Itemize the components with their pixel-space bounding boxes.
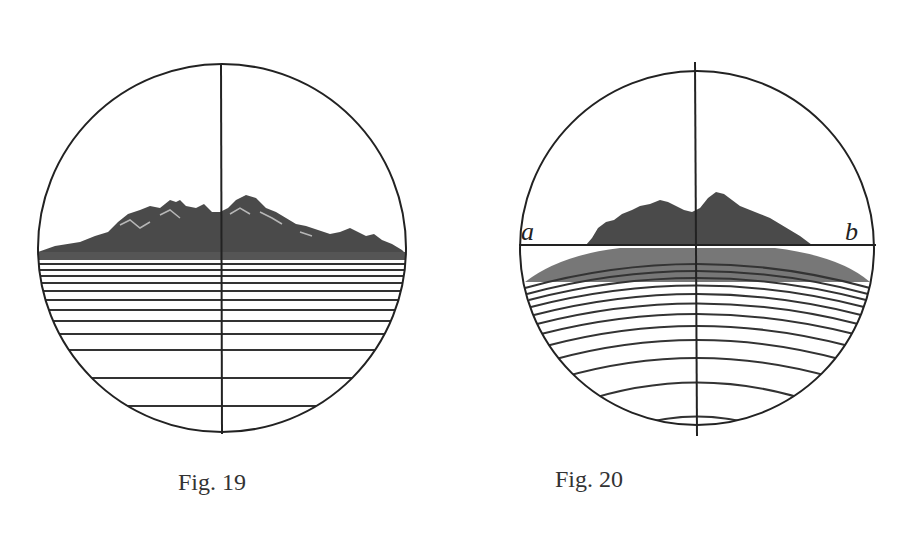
fig19-caption: Fig. 19: [178, 469, 246, 496]
fig20-label-b: b: [845, 217, 858, 246]
fig20-mountains: [586, 192, 812, 245]
fig20-crosshair-vertical: [695, 62, 697, 436]
fig20-label-a: a: [521, 217, 534, 246]
fig19-crosshair-vertical: [221, 64, 222, 434]
fig20-caption: Fig. 20: [555, 466, 623, 493]
figure-19: [30, 64, 420, 434]
figure-20: a b: [519, 62, 876, 436]
figure-canvas: a b: [0, 0, 903, 536]
fig19-sea-lines: [30, 264, 420, 406]
